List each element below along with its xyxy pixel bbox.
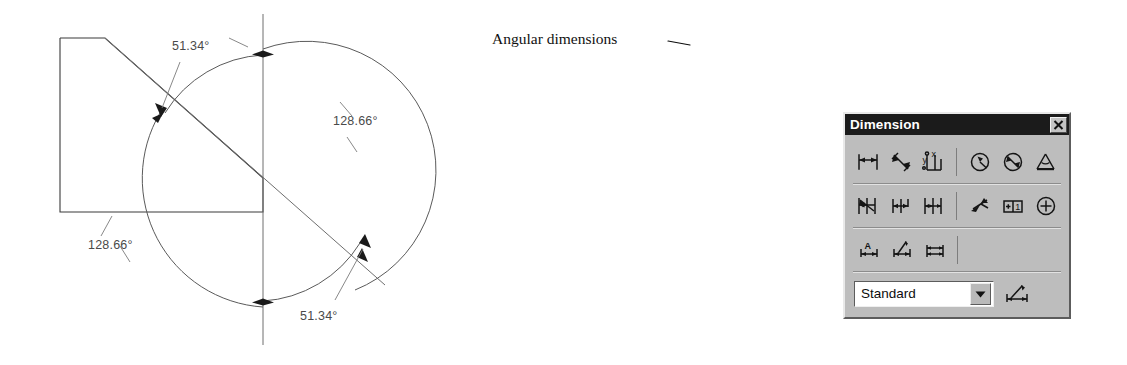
svg-text:A: A (864, 241, 871, 251)
toolbar-separator-2a (956, 192, 957, 220)
toolbar-separator-3a (957, 236, 958, 264)
annotation-label: Angular dimensions (492, 30, 617, 48)
svg-text:x: x (932, 150, 937, 159)
toolbar-row-2: 1 (852, 185, 1062, 227)
quick-leader-icon[interactable] (963, 190, 996, 223)
angular-dimension-icon[interactable] (1029, 146, 1062, 179)
toolbar-body: x y (845, 135, 1069, 273)
arrowhead-upper-inclined-b (152, 113, 163, 123)
leader-51-upper (162, 62, 180, 108)
screenshot-canvas: 51.34° 128.66° 128.66° 51.34° Angular di… (0, 0, 1127, 365)
arrowhead-bottom-left (252, 299, 263, 306)
radius-dimension-icon[interactable] (963, 146, 996, 179)
arrowhead-top-right (263, 51, 274, 58)
inclined-reference-line (105, 38, 385, 285)
toolbar-row-3: A (852, 229, 1062, 271)
svg-text:1: 1 (1015, 202, 1020, 212)
leader-51-lower-right (335, 249, 363, 300)
dimension-label-51-lower-right: 51.34° (300, 309, 337, 323)
leader-128-right-2 (347, 137, 357, 152)
arc-51-lower-right (263, 243, 360, 301)
linear-dimension-icon[interactable] (852, 146, 885, 179)
dimension-label-51-upper: 51.34° (172, 39, 209, 53)
chevron-down-icon[interactable] (970, 283, 991, 305)
baseline-dimension-icon[interactable] (885, 190, 918, 223)
dimension-style-button[interactable] (1000, 280, 1034, 308)
dimension-text-edit-icon[interactable] (885, 234, 918, 267)
tolerance-icon[interactable]: 1 (996, 190, 1029, 223)
arrowhead-bottom-right (263, 299, 274, 306)
diameter-dimension-icon[interactable] (996, 146, 1029, 179)
dimension-toolbar[interactable]: Dimension (843, 112, 1071, 319)
toolbar-bottom-row: Standard (845, 273, 1069, 308)
close-icon[interactable] (1050, 117, 1067, 133)
ordinate-dimension-icon[interactable]: x y (918, 146, 951, 179)
toolbar-separator-1a (956, 148, 957, 176)
continue-dimension-icon[interactable] (918, 190, 951, 223)
arrowhead-top-left (252, 51, 263, 58)
arrowhead-lower-inclined-a (359, 234, 371, 248)
dimension-update-icon[interactable] (918, 234, 951, 267)
toolbar-title: Dimension (850, 118, 920, 132)
dimension-label-128-right: 128.66° (333, 114, 378, 128)
part-outline-body (60, 38, 263, 212)
quick-dimension-icon[interactable] (852, 190, 885, 223)
toolbar-title-bar[interactable]: Dimension (845, 114, 1069, 135)
dimension-style-combo[interactable]: Standard (854, 281, 994, 307)
toolbar-row-1: x y (852, 141, 1062, 183)
svg-text:y: y (923, 155, 928, 165)
dimension-label-128-lower-left: 128.66° (88, 238, 133, 252)
dimension-edit-icon[interactable]: A (852, 234, 885, 267)
leader-128-lower-a (101, 216, 112, 236)
arc-128-right (263, 41, 436, 290)
leader-51-top-tick (229, 38, 248, 47)
center-mark-icon[interactable] (1029, 190, 1062, 223)
aligned-dimension-icon[interactable] (885, 146, 918, 179)
arc-128-lower-left (142, 113, 263, 307)
dimension-style-value: Standard (855, 287, 970, 301)
